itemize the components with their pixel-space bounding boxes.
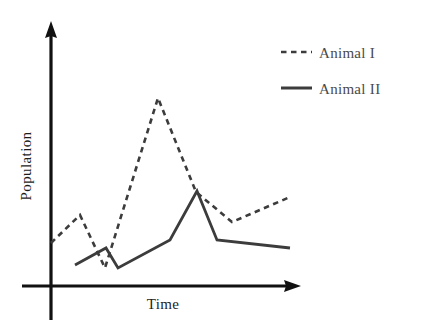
y-axis-label: Population: [18, 131, 34, 200]
line-chart: Population Time Animal I Animal II: [0, 0, 425, 334]
legend-label-animal-i: Animal I: [319, 45, 375, 61]
chart-container: Population Time Animal I Animal II: [0, 0, 425, 334]
legend-label-animal-ii: Animal II: [319, 81, 380, 97]
x-axis-label: Time: [147, 296, 180, 312]
